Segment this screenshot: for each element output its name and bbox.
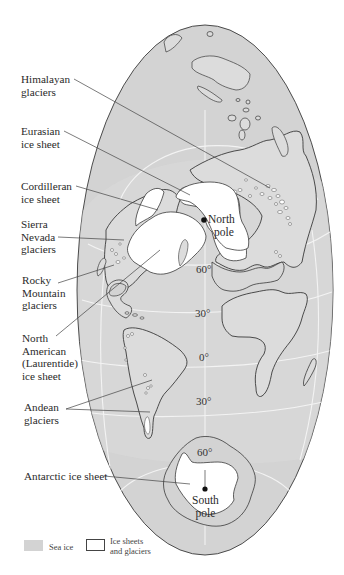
legend-ice-sheet-swatch (86, 539, 105, 551)
label-antarctic-ice-sheet: Antarctic ice sheet (24, 470, 107, 483)
latitude-60n: 60° (196, 263, 211, 275)
north-pole-label: North pole (208, 213, 235, 238)
south-pole-label: South pole (192, 494, 219, 519)
label-andean-glaciers: Andean glaciers (24, 401, 59, 426)
south-pole-dot (202, 486, 207, 491)
label-eurasian-ice-sheet: Eurasian ice sheet (21, 125, 60, 150)
legend-sea-ice-label: Sea ice (49, 543, 73, 553)
label-sierra-nevada-glaciers: Sierra Nevada glaciers (21, 218, 56, 256)
latitude-60s: 60° (197, 446, 212, 458)
label-cordilleran-ice-sheet: Cordilleran ice sheet (21, 180, 72, 205)
label-rocky-mountain-glaciers: Rocky Mountain glaciers (22, 274, 66, 312)
north-pole-dot (201, 217, 207, 223)
latitude-30n: 30° (195, 307, 210, 319)
label-himalayan-glaciers: Himalayan glaciers (21, 73, 70, 98)
legend-ice-sheets-label: Ice sheets and glaciers (110, 537, 151, 556)
latitude-equator: 0° (199, 351, 209, 363)
latitude-30s: 30° (196, 395, 211, 407)
label-laurentide-ice-sheet: North American (Laurentide) ice sheet (22, 332, 78, 382)
legend-sea-ice-swatch (24, 540, 43, 551)
